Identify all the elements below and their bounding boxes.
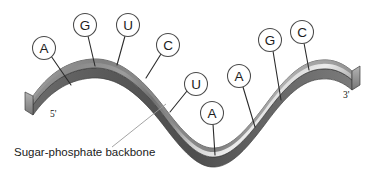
leader-line-u1: [117, 36, 125, 65]
nucleotide-label: A: [234, 69, 243, 84]
leader-line-c1: [146, 54, 161, 78]
nucleotide-u-1[interactable]: U: [117, 14, 140, 37]
nucleotide-a-3[interactable]: A: [228, 65, 251, 88]
nucleotide-label: G: [265, 33, 276, 48]
nucleotide-a-2[interactable]: A: [201, 102, 224, 125]
nucleotide-label: C: [163, 38, 173, 53]
nucleotide-c-2[interactable]: C: [291, 21, 314, 44]
three-prime-end-label: 3': [343, 90, 350, 100]
nucleotide-c-1[interactable]: C: [157, 34, 180, 57]
nucleotide-label: C: [297, 25, 307, 40]
leader-line-u2: [170, 91, 187, 112]
backbone-leader-line: [112, 104, 166, 147]
nucleotide-label: G: [80, 18, 91, 33]
diagram-canvas: A G U C U A A: [0, 0, 372, 173]
ribbon-left-end-cap: [25, 92, 33, 115]
nucleotide-g-2[interactable]: G: [259, 29, 282, 52]
ribbon-right-end-cap: [352, 66, 360, 90]
rna-strand-diagram: A G U C U A A: [0, 0, 372, 173]
nucleotide-u-2[interactable]: U: [185, 73, 208, 96]
nucleotide-label: A: [39, 41, 48, 56]
leader-line-a3: [243, 87, 255, 127]
nucleotide-label: A: [207, 106, 216, 121]
nucleotide-g-1[interactable]: G: [74, 14, 97, 37]
backbone-caption: Sugar-phosphate backbone: [14, 146, 155, 158]
nucleotide-label: U: [191, 77, 201, 92]
nucleotide-a-1[interactable]: A: [33, 37, 56, 60]
nucleotide-label: U: [123, 18, 133, 33]
five-prime-end-label: 5': [50, 109, 57, 119]
